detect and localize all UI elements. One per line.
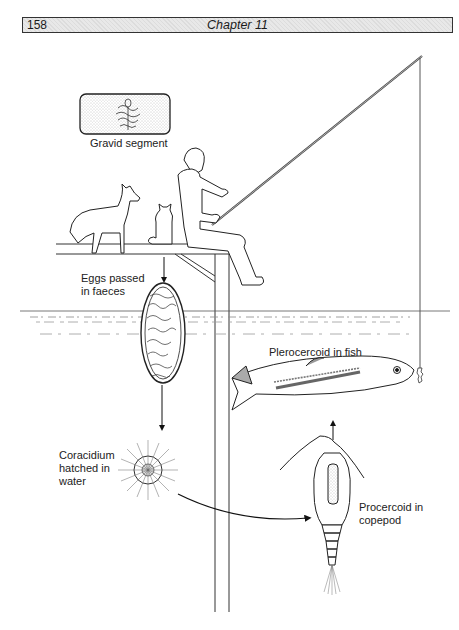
label-coracidium-line1: Coracidium [59, 449, 115, 462]
copepod-illustration [280, 436, 364, 595]
label-procercoid-line1: Procercoid in [359, 501, 423, 514]
fish-illustration [232, 356, 414, 410]
label-plerocercoid: Plerocercoid in fish [269, 346, 362, 359]
label-procercoid-line2: copepod [359, 514, 401, 527]
dog-illustration [70, 184, 140, 253]
label-coracidium-line3: water [59, 475, 86, 488]
water-surface [20, 311, 450, 334]
cat-illustration [148, 204, 172, 244]
egg-capsule-illustration [141, 257, 185, 428]
coracidium-illustration [118, 440, 308, 519]
label-coracidium-line2: hatched in [59, 462, 110, 475]
label-eggs-line1: Eggs passed [81, 272, 145, 285]
life-cycle-illustration [0, 0, 459, 630]
gravid-segment-illustration [80, 94, 170, 134]
man-fishing-illustration [178, 148, 264, 285]
pier-illustration [56, 244, 235, 612]
label-eggs-line2: in faeces [81, 285, 125, 298]
label-gravid-segment: Gravid segment [90, 137, 168, 150]
